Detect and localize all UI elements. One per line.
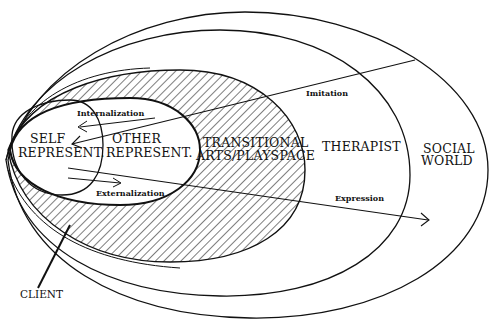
internalization-label: Internalization (77, 108, 144, 118)
externalization-label: Externalization (96, 188, 165, 198)
social-world-label: SOCIAL WORLD (421, 141, 479, 168)
expression-label: Expression (335, 193, 384, 203)
imitation-label: Imitation (306, 88, 348, 98)
therapist-label: THERAPIST (322, 139, 401, 154)
transitional-playspace-label: TRANSITIONAL ARTS/PLAYSPACE (195, 135, 315, 163)
client-therapy-diagram: SELF REPRESENT. OTHER REPRESENT. TRANSIT… (0, 0, 492, 320)
client-label: CLIENT (20, 288, 63, 300)
